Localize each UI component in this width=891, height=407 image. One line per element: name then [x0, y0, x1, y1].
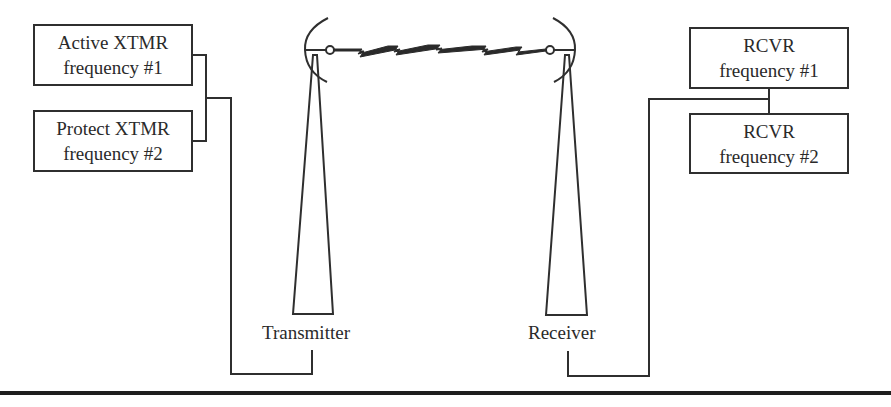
transmitter-label: Transmitter: [262, 322, 350, 344]
rcvr-2-box: RCVR frequency #2: [689, 113, 849, 174]
protect-xtmr-box: Protect XTMR frequency #2: [33, 110, 193, 172]
box-line1: RCVR: [743, 119, 795, 144]
box-line1: Protect XTMR: [56, 116, 169, 141]
box-line2: frequency #1: [63, 55, 163, 80]
box-line1: RCVR: [743, 33, 795, 58]
transmitter-tower: [293, 55, 333, 314]
box-line2: frequency #2: [719, 144, 819, 169]
bottom-rule: [0, 391, 891, 395]
receiver-label: Receiver: [528, 322, 596, 344]
box-line1: Active XTMR: [58, 30, 168, 55]
radio-path-icon: [334, 45, 546, 57]
xtmr-combiner-line: [192, 55, 206, 141]
rcvr-1-box: RCVR frequency #1: [689, 27, 849, 89]
receiver-feed-icon: [546, 46, 554, 54]
box-line2: frequency #1: [719, 58, 819, 83]
transmitter-feed-icon: [326, 46, 334, 54]
receiver-tower: [546, 55, 587, 315]
box-line2: frequency #2: [63, 141, 163, 166]
active-xtmr-box: Active XTMR frequency #1: [33, 24, 193, 86]
